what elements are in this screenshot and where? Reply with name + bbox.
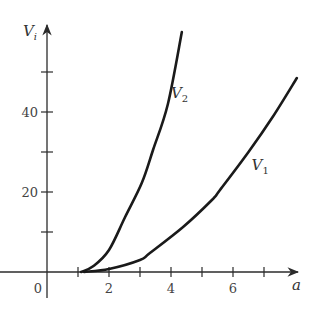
x-axis-label: a — [292, 276, 301, 294]
chart: 0246 2040 Vi a V2V1 — [0, 0, 315, 318]
y-tick-label: 40 — [21, 105, 38, 120]
y-axis-label: Vi — [23, 22, 37, 42]
curve-v2 — [81, 32, 182, 272]
x-tick-label: 4 — [167, 281, 175, 296]
curves — [81, 32, 297, 272]
x-tick-label: 0 — [34, 281, 42, 296]
y-tick-labels: 2040 — [21, 105, 38, 200]
label-v1: V1 — [252, 156, 269, 176]
y-tick-label: 20 — [21, 185, 38, 200]
y-axis-label-sub: i — [34, 31, 37, 42]
x-tick-label: 6 — [229, 281, 237, 296]
x-tick-label: 2 — [105, 281, 113, 296]
label-v2: V2 — [171, 84, 188, 104]
curve-labels: V2V1 — [171, 84, 269, 176]
x-tick-labels: 0246 — [34, 281, 237, 296]
